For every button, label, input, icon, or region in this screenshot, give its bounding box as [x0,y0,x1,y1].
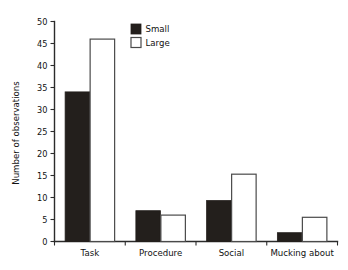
y-axis-tick-label: 10 [37,193,47,203]
y-axis-tick-label: 15 [37,171,47,181]
y-axis-ticks: 05101520253035404550 [37,17,54,247]
bar-small-social [207,201,232,242]
bar-small-procedure [136,211,161,242]
legend-label-large: Large [146,38,170,48]
x-axis-category-label: Task [80,248,100,258]
bar-chart: Number of observations 05101520253035404… [0,0,348,270]
y-axis-tick-label: 25 [37,127,47,137]
chart-canvas: Number of observations 05101520253035404… [0,0,348,270]
legend-swatch-small [131,24,141,34]
y-axis-tick-label: 30 [37,105,47,115]
x-axis-category-label: Mucking about [270,248,334,258]
bar-large-social [232,174,257,241]
y-axis-tick-label: 45 [37,39,47,49]
bar-large-mucking-about [302,217,327,241]
bar-small-task [65,92,90,242]
y-axis-tick-label: 40 [37,61,47,71]
chart-legend: SmallLarge [131,24,170,48]
x-axis-category-labels: TaskProcedureSocialMucking about [80,248,335,258]
legend-label-small: Small [146,24,170,34]
y-axis-label-group: Number of observations [11,81,21,185]
y-axis-tick-label: 20 [37,149,47,159]
bar-series-group [65,39,327,241]
x-axis-category-label: Social [219,248,244,258]
y-axis-tick-label: 0 [42,237,47,247]
y-axis-label: Number of observations [11,81,21,185]
legend-swatch-large [131,38,141,48]
x-axis-category-label: Procedure [139,248,182,258]
y-axis-tick-label: 50 [37,17,47,27]
y-axis-tick-label: 5 [42,215,47,225]
y-axis-tick-label: 35 [37,83,47,93]
bar-large-procedure [161,215,186,241]
bar-small-mucking-about [277,233,302,242]
bar-large-task [90,39,115,241]
